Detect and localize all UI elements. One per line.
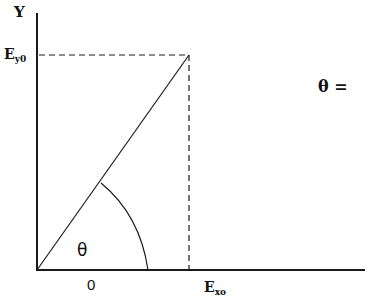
diagram-canvas bbox=[0, 0, 381, 300]
theta-equation-label: θ = bbox=[318, 77, 348, 96]
origin-zero-label: 0 bbox=[87, 276, 95, 293]
theta-angle-label: θ bbox=[77, 240, 87, 260]
angle-arc bbox=[101, 183, 148, 270]
ex0-label-sub: xo bbox=[215, 287, 226, 297]
ey0-label-main: E bbox=[4, 46, 15, 62]
ey0-label-sub: y0 bbox=[15, 54, 27, 64]
ex0-label-main: E bbox=[204, 279, 215, 295]
y-axis-label: Y bbox=[14, 3, 25, 21]
ey0-label: Ey0 bbox=[4, 46, 26, 64]
field-vector-diagram: Y Ey0 θ = θ 0 Exo bbox=[0, 0, 381, 300]
resultant-vector-line bbox=[37, 55, 189, 270]
ex0-label: Exo bbox=[204, 279, 226, 297]
